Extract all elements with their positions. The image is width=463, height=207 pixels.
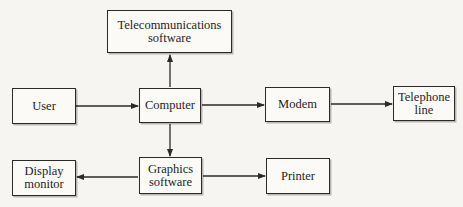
- node-label-line: software: [148, 176, 193, 189]
- node-telecommunications-software: Telecommunicationssoftware: [107, 10, 232, 53]
- node-label-line: Printer: [281, 170, 315, 183]
- node-display-monitor: Displaymonitor: [12, 160, 76, 196]
- node-user: User: [12, 88, 76, 124]
- node-computer: Computer: [139, 88, 201, 123]
- node-label-line: software: [118, 32, 222, 45]
- node-printer: Printer: [266, 158, 330, 194]
- node-modem: Modem: [265, 87, 330, 122]
- node-label-line: User: [32, 100, 56, 113]
- node-graphics-software: Graphicssoftware: [139, 157, 202, 194]
- node-label-line: line: [398, 104, 450, 117]
- node-telephone-line: Telephoneline: [393, 86, 455, 121]
- node-label-line: Computer: [145, 99, 195, 112]
- node-label-line: monitor: [24, 178, 64, 191]
- node-label-line: Graphics: [148, 163, 193, 176]
- node-label-line: Telecommunications: [118, 19, 222, 32]
- node-label-line: Modem: [278, 98, 317, 111]
- node-label-line: Telephone: [398, 91, 450, 104]
